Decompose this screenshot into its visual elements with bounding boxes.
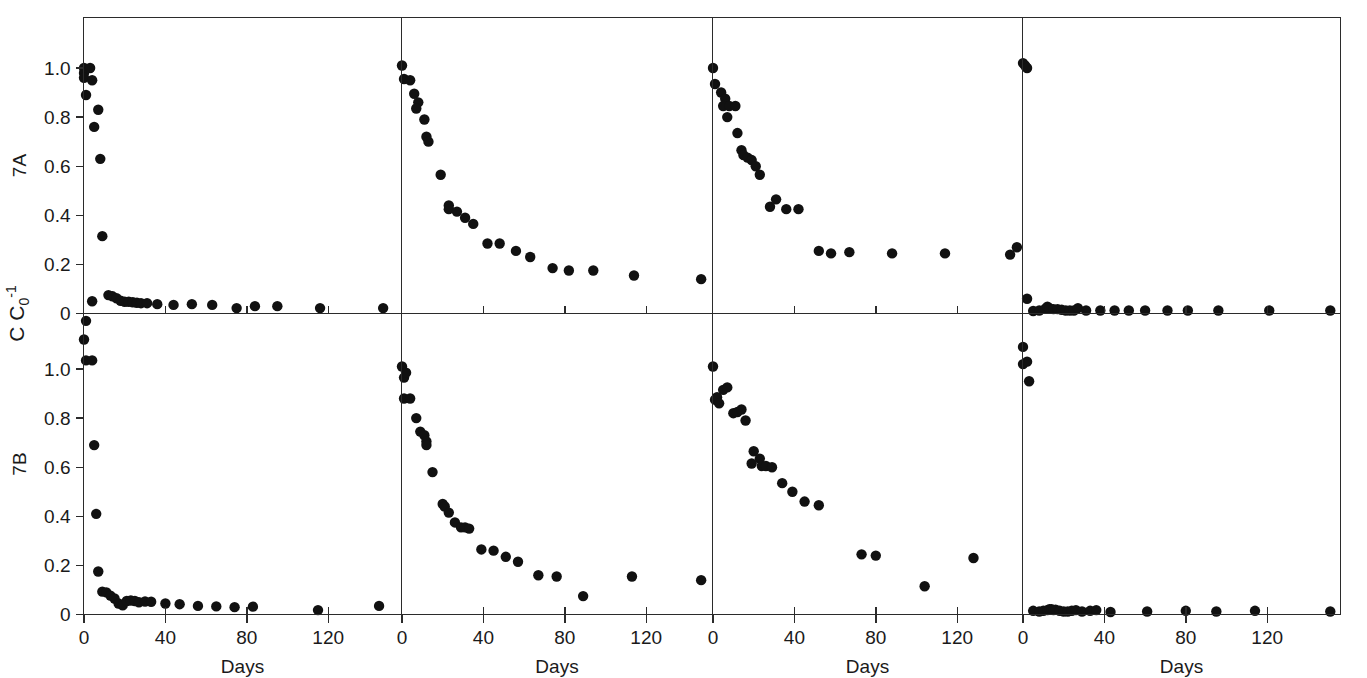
x-tick-label: 40	[784, 627, 805, 648]
data-point	[501, 552, 511, 562]
data-point	[89, 122, 99, 132]
data-point	[146, 597, 156, 607]
data-point	[421, 440, 431, 450]
data-point	[81, 90, 91, 100]
y-axis-title: C C0-1	[3, 285, 32, 342]
data-point	[468, 219, 478, 229]
data-point	[476, 544, 486, 554]
y-tick-label: 0.6	[44, 457, 70, 478]
x-tick-label: 80	[1175, 627, 1196, 648]
data-point	[578, 591, 588, 601]
data-point	[533, 570, 543, 580]
figure-container: 000.20.20.40.40.60.60.80.81.01.004080120…	[0, 0, 1367, 678]
x-tick-label: 40	[155, 627, 176, 648]
x-axis-title: Days	[846, 656, 889, 677]
row-label-7A: 7A	[9, 154, 30, 178]
data-point	[547, 263, 557, 273]
data-point	[187, 299, 197, 309]
data-point	[85, 63, 95, 73]
panel-7B-4	[1018, 342, 1336, 618]
data-point	[722, 112, 732, 122]
data-point	[1024, 376, 1034, 386]
data-point	[174, 599, 184, 609]
x-tick-label: 0	[708, 627, 719, 648]
data-point	[231, 303, 241, 313]
data-point	[696, 274, 706, 284]
data-point	[793, 204, 803, 214]
data-point	[513, 557, 523, 567]
x-tick-label: 40	[473, 627, 494, 648]
data-point	[444, 507, 454, 517]
data-point	[525, 252, 535, 262]
data-point	[730, 101, 740, 111]
x-tick-label: 0	[1018, 627, 1029, 648]
y-tick-label: 0.8	[44, 107, 70, 128]
data-point	[710, 79, 720, 89]
data-point	[629, 270, 639, 280]
multi-panel-scatter-chart: 000.20.20.40.40.60.60.80.81.01.004080120…	[0, 0, 1367, 678]
data-point	[401, 367, 411, 377]
data-point	[95, 154, 105, 164]
data-point	[1022, 63, 1032, 73]
y-tick-label: 0	[60, 303, 71, 324]
data-point	[89, 440, 99, 450]
x-axis-title: Days	[1160, 656, 1203, 677]
data-point	[814, 500, 824, 510]
panel-7B-2	[397, 361, 707, 601]
row-label-7B: 7B	[9, 452, 30, 475]
data-point	[777, 478, 787, 488]
data-point	[93, 105, 103, 115]
data-point	[696, 575, 706, 585]
data-point	[1022, 356, 1032, 366]
panels-group	[79, 58, 1336, 617]
x-tick-label: 80	[236, 627, 257, 648]
data-point	[755, 170, 765, 180]
y-tick-label: 0.2	[44, 254, 70, 275]
x-tick-label: 120	[1251, 627, 1283, 648]
data-point	[814, 246, 824, 256]
y-tick-label: 0	[60, 604, 71, 625]
data-point	[374, 601, 384, 611]
data-point	[97, 231, 107, 241]
x-tick-label: 0	[397, 627, 408, 648]
data-point	[799, 496, 809, 506]
y-tick-label: 0.4	[44, 205, 71, 226]
data-point	[464, 523, 474, 533]
data-point	[405, 393, 415, 403]
y-tick-label: 0.4	[44, 506, 71, 527]
x-tick-label: 0	[79, 627, 90, 648]
data-point	[87, 75, 97, 85]
x-tick-label: 40	[1094, 627, 1115, 648]
data-point	[81, 316, 91, 326]
y-tick-label: 1.0	[44, 359, 70, 380]
y-tick-label: 0.8	[44, 408, 70, 429]
data-point	[229, 602, 239, 612]
axes-group	[76, 18, 1341, 623]
y-tick-label: 1.0	[44, 58, 70, 79]
data-point	[193, 601, 203, 611]
data-point	[411, 413, 421, 423]
data-point	[427, 467, 437, 477]
x-axis-title: Days	[221, 656, 264, 677]
panel-7B-1	[79, 334, 384, 615]
data-point	[856, 549, 866, 559]
data-point	[411, 103, 421, 113]
data-point	[494, 238, 504, 248]
data-point	[93, 566, 103, 576]
data-point	[482, 238, 492, 248]
x-tick-label: 120	[630, 627, 662, 648]
data-point	[714, 398, 724, 408]
data-point	[211, 601, 221, 611]
panel-7A-4	[1012, 58, 1336, 316]
data-point	[551, 571, 561, 581]
data-point	[423, 136, 433, 146]
data-point	[511, 246, 521, 256]
data-point	[740, 415, 750, 425]
data-point	[315, 303, 325, 313]
data-point	[722, 382, 732, 392]
data-point	[844, 247, 854, 257]
data-point	[419, 114, 429, 124]
data-point	[736, 404, 746, 414]
data-point	[207, 300, 217, 310]
panel-7A-3	[708, 63, 1016, 260]
